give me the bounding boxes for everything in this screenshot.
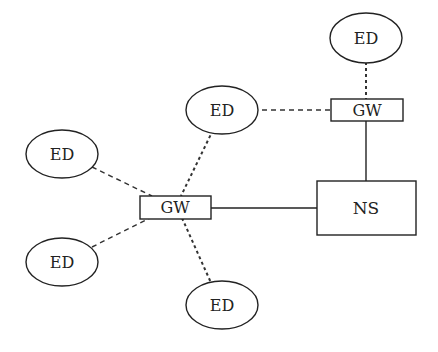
edge-ed-left-bottom-to-gw-left [92, 218, 150, 247]
gateway-left: GW [140, 196, 211, 219]
end-device-top: ED [330, 13, 402, 63]
end-device-left-top: ED [26, 130, 98, 178]
gateway-top: GW [331, 99, 403, 121]
end-device-middle: ED [186, 86, 258, 134]
gateway-left-label: GW [160, 198, 190, 217]
end-device-middle-label: ED [210, 101, 235, 120]
network-server: NS [317, 181, 416, 235]
end-device-left-bottom: ED [26, 238, 98, 286]
network-diagram: ED GW ED ED ED ED GW NS [0, 0, 438, 352]
end-device-bottom: ED [186, 281, 258, 329]
end-device-left-top-label: ED [50, 145, 75, 164]
edge-ed-left-top-to-gw-left [92, 167, 152, 196]
network-server-label: NS [353, 198, 380, 218]
edge-ed-mid-to-gw-left [181, 130, 213, 196]
edge-ed-bottom-to-gw-left [182, 218, 212, 285]
end-device-left-bottom-label: ED [50, 253, 75, 272]
end-device-bottom-label: ED [210, 296, 235, 315]
end-device-top-label: ED [354, 29, 379, 48]
gateway-top-label: GW [352, 101, 382, 120]
